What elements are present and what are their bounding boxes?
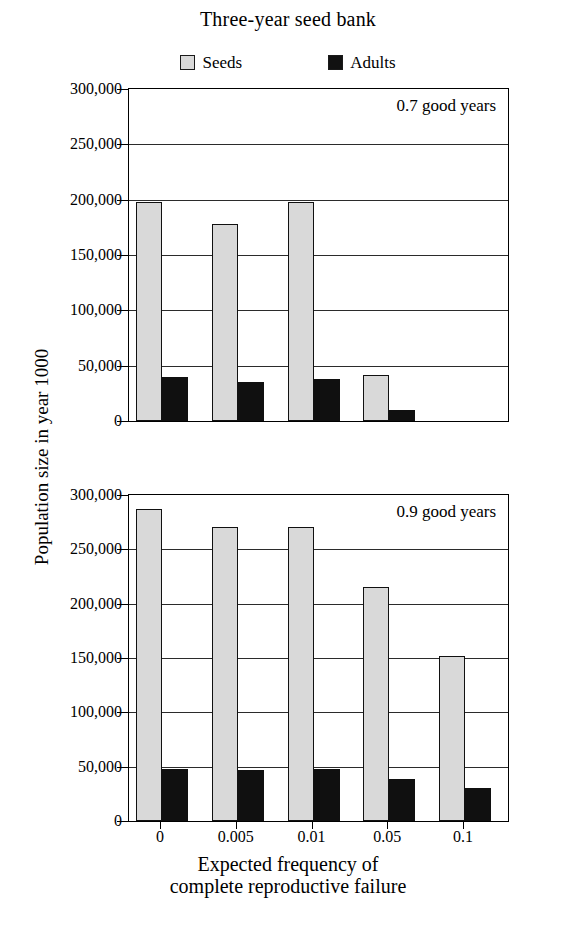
y-tick-mark: [117, 310, 129, 311]
plot-area-top: 0.7 good years: [128, 88, 509, 422]
y-tick-mark: [117, 604, 129, 605]
bar-adults-0: [162, 377, 188, 421]
y-tick-label: 250,000: [70, 135, 122, 153]
y-tick-mark: [117, 421, 129, 422]
panel-annotation-bottom: 0.9 good years: [396, 502, 496, 522]
bar-adults-0: [162, 769, 188, 821]
y-tick-mark: [117, 200, 129, 201]
x-tick-labels: 00.0050.010.050.1: [128, 822, 509, 852]
y-tick-label: 300,000: [70, 486, 122, 504]
x-tick-label: 0.1: [453, 828, 473, 846]
x-axis-title-line1: Expected frequency of: [0, 853, 576, 875]
bars-top: [129, 89, 508, 421]
bar-adults-0.01: [314, 379, 340, 421]
bar-adults-0.01: [314, 769, 340, 821]
y-tick-label: 50,000: [78, 357, 122, 375]
x-axis-title-line2: complete reproductive failure: [0, 875, 576, 897]
bar-seeds-0.01: [288, 202, 314, 421]
x-axis-title: Expected frequency of complete reproduct…: [0, 853, 576, 898]
bar-seeds-0.01: [288, 527, 314, 821]
y-tick-mark: [117, 658, 129, 659]
panel-annotation-top: 0.7 good years: [396, 96, 496, 116]
y-tick-mark: [117, 549, 129, 550]
y-tick-label: 150,000: [70, 246, 122, 264]
bar-seeds-0.005: [212, 224, 238, 421]
bar-adults-0.005: [238, 770, 264, 821]
bar-adults-0.05: [389, 779, 415, 821]
x-tick-label: 0.01: [298, 828, 326, 846]
panel-bottom: 300,000250,000200,000150,000100,00050,00…: [0, 440, 576, 880]
x-tick-label: 0: [156, 828, 164, 846]
y-tick-mark: [117, 144, 129, 145]
y-tick-labels-bottom: 300,000250,000200,000150,000100,00050,00…: [16, 494, 122, 822]
y-tick-mark: [117, 366, 129, 367]
y-tick-mark: [117, 712, 129, 713]
plot-area-bottom: 0.9 good years: [128, 494, 509, 822]
figure-root: Three-year seed bank Seeds Adults Popula…: [0, 0, 576, 930]
bar-seeds-0.005: [212, 527, 238, 821]
y-tick-mark: [117, 255, 129, 256]
panel-top: 300,000250,000200,000150,000100,00050,00…: [0, 0, 576, 440]
y-tick-label: 250,000: [70, 540, 122, 558]
y-tick-mark: [117, 495, 129, 496]
bar-seeds-0.05: [363, 375, 389, 421]
bars-bottom: [129, 495, 508, 821]
y-tick-label: 100,000: [70, 301, 122, 319]
y-tick-mark: [117, 89, 129, 90]
bar-seeds-0.1: [439, 656, 465, 821]
y-tick-label: 150,000: [70, 649, 122, 667]
y-tick-labels-top: 300,000250,000200,000150,000100,00050,00…: [16, 88, 122, 422]
y-tick-label: 100,000: [70, 703, 122, 721]
y-tick-label: 200,000: [70, 191, 122, 209]
bar-adults-0.005: [238, 382, 264, 421]
bar-seeds-0: [136, 509, 162, 821]
y-tick-label: 300,000: [70, 80, 122, 98]
bar-adults-0.1: [465, 788, 491, 821]
y-tick-label: 200,000: [70, 595, 122, 613]
y-tick-mark: [117, 767, 129, 768]
bar-adults-0.05: [389, 410, 415, 421]
bar-seeds-0: [136, 202, 162, 421]
x-tick-label: 0.005: [218, 828, 254, 846]
x-tick-label: 0.05: [373, 828, 401, 846]
bar-seeds-0.05: [363, 587, 389, 821]
y-tick-label: 50,000: [78, 758, 122, 776]
